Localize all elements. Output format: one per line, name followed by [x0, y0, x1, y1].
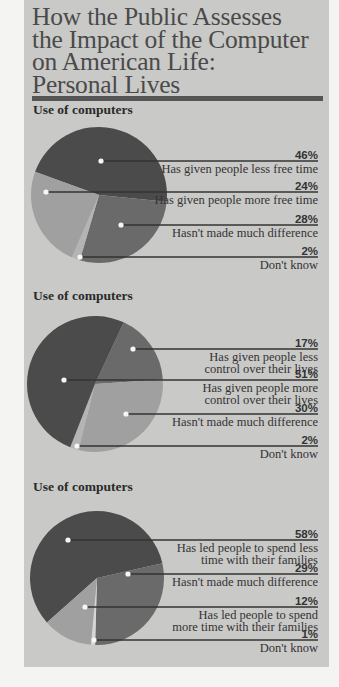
marker-dot	[98, 158, 103, 163]
marker-dot	[123, 411, 128, 416]
label-text: Hasn't made much difference	[172, 417, 318, 429]
percent-value: 51%	[202, 368, 318, 380]
marker-dot	[91, 637, 96, 642]
percent-value: 28%	[172, 213, 318, 225]
marker-dot	[65, 537, 70, 542]
label-text: Don't know	[260, 260, 318, 272]
chart-1-label-more-free-time: 24% Has given people more free time	[155, 180, 318, 207]
percent-value: 2%	[260, 245, 318, 257]
percent-value: 24%	[155, 180, 318, 192]
percent-value: 1%	[260, 628, 318, 640]
chart-3-label-no-difference: 29% Hasn't made much difference	[172, 562, 318, 589]
chart-1-label-less-free-time: 46% Has given people less free time	[161, 149, 318, 176]
label-text: Hasn't made much difference	[172, 577, 318, 589]
percent-value: 30%	[172, 402, 318, 414]
label-text: Hasn't made much difference	[172, 228, 318, 240]
marker-dot	[77, 254, 82, 259]
chart-2-label-more-control: 51% Has given people more control over t…	[202, 368, 318, 406]
label-text: Has given people less free time	[161, 164, 318, 176]
pie-chart-personal-free-time	[31, 127, 167, 263]
percent-value: 46%	[161, 149, 318, 161]
percent-value: 17%	[204, 337, 318, 349]
marker-dot	[125, 571, 130, 576]
label-text: Has given people more free time	[155, 195, 318, 207]
percent-value: 12%	[172, 595, 318, 607]
pie-chart-control-over-lives	[27, 316, 163, 452]
percent-value: 2%	[260, 434, 318, 446]
chart-3-label-dont-know: 1% Don't know	[260, 628, 318, 655]
percent-value: 29%	[172, 562, 318, 574]
chart-1-label-no-difference: 28% Hasn't made much difference	[172, 213, 318, 240]
marker-dot	[61, 377, 66, 382]
label-text: Don't know	[260, 643, 318, 655]
chart-3-label-less-family-time: 58% Has led people to spend less time wi…	[177, 528, 318, 566]
label-text: Don't know	[260, 449, 318, 461]
chart-2-label-dont-know: 2% Don't know	[260, 434, 318, 461]
chart-2-label-no-difference: 30% Hasn't made much difference	[172, 402, 318, 429]
marker-dot	[74, 443, 79, 448]
marker-dot	[118, 222, 123, 227]
marker-dot	[130, 346, 135, 351]
pie-chart-family-time	[30, 511, 164, 645]
marker-dot	[82, 604, 87, 609]
chart-1-label-dont-know: 2% Don't know	[260, 245, 318, 272]
marker-dot	[43, 189, 48, 194]
percent-value: 58%	[177, 528, 318, 540]
